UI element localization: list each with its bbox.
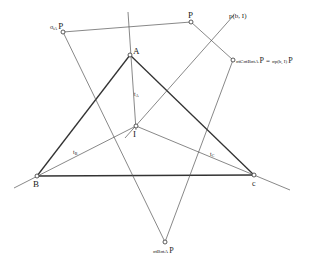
side-AC xyxy=(130,55,254,175)
point-sCsBsA-P xyxy=(231,58,235,62)
label-tC: tC xyxy=(210,151,215,158)
label-sBsA-P: σtBσtAP xyxy=(153,246,174,255)
point-C xyxy=(252,173,256,177)
label-P: P xyxy=(188,10,193,20)
line-p-b-I xyxy=(125,15,234,138)
label-C: c xyxy=(252,179,256,188)
segment-sBsAP-sCsBsAP xyxy=(165,60,233,242)
side-AB xyxy=(37,55,130,176)
point-A xyxy=(128,53,132,57)
label-tA: tA xyxy=(134,91,139,98)
label-sA-P: σtAP xyxy=(50,21,63,31)
label-p-b-I: p(b, I) xyxy=(229,12,247,20)
label-A: A xyxy=(133,46,140,56)
point-sBsA-P xyxy=(163,240,167,244)
bisector-tA xyxy=(128,12,136,130)
segment-P-sCsBsAP xyxy=(191,22,233,60)
point-B xyxy=(35,174,39,178)
geometry-diagram: A B c I P σtAP σtBσtAP σtCσtBσtAP=σp(b, … xyxy=(0,0,312,263)
label-sCsBsA-P: σtCσtBσtAP=σp(b, I)P xyxy=(236,56,293,65)
segment-P-sAP xyxy=(63,22,191,32)
point-I xyxy=(134,124,138,128)
label-I: I xyxy=(133,129,136,139)
label-B: B xyxy=(33,179,39,189)
label-tB: tB xyxy=(73,149,78,156)
segment-sAP-sBsAP xyxy=(63,32,165,242)
point-P xyxy=(189,20,193,24)
side-BC xyxy=(37,175,254,176)
